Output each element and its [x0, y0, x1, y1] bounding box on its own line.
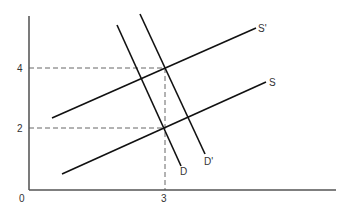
demand-curve-d-prime	[140, 14, 205, 154]
supply-demand-chart: 0 3 4 2 S' S D D'	[0, 0, 350, 210]
label-s-prime: S'	[258, 23, 267, 34]
label-s: S	[269, 77, 276, 88]
y-tick-4: 4	[17, 63, 23, 74]
x-tick-3: 3	[161, 193, 167, 204]
supply-curve-s-prime	[52, 28, 256, 118]
origin-label: 0	[19, 193, 25, 204]
y-tick-2: 2	[17, 123, 23, 134]
label-d: D	[180, 166, 187, 177]
label-d-prime: D'	[204, 156, 213, 167]
